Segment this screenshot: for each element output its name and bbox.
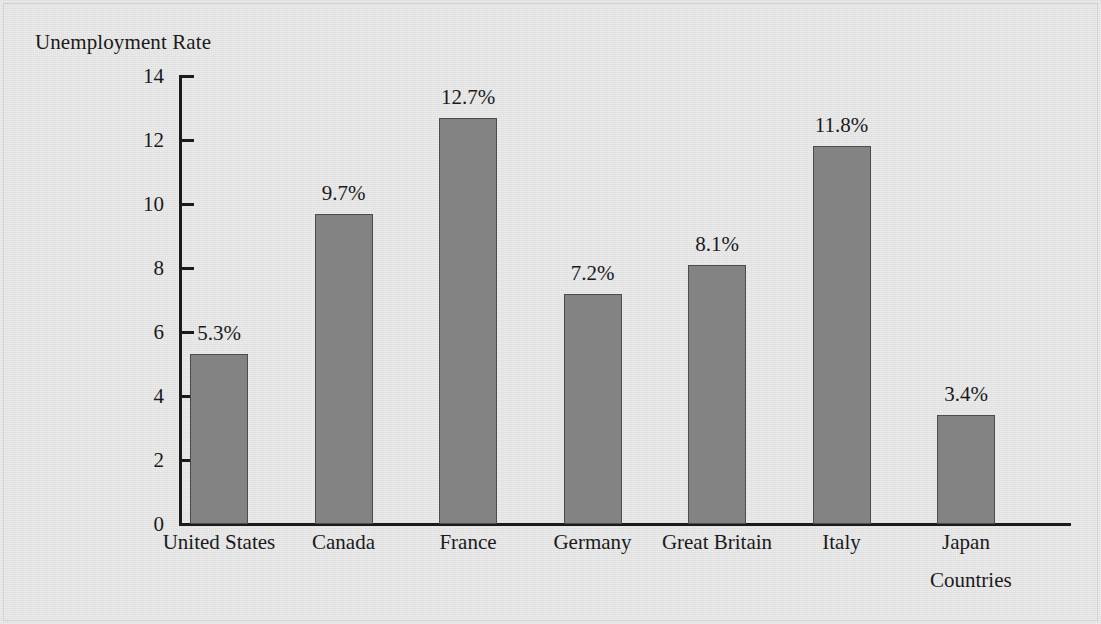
x-axis-title: Countries: [930, 568, 1012, 593]
bar-value-label-united-states: 5.3%: [159, 323, 279, 344]
y-tick-label-6: 6: [94, 322, 164, 343]
bar-japan: [937, 415, 995, 524]
y-tick-mark-12: [180, 139, 194, 142]
bar-germany: [564, 294, 622, 524]
bar-value-label-japan: 3.4%: [906, 384, 1026, 405]
y-tick-mark-10: [180, 203, 194, 206]
bar-france: [439, 118, 497, 524]
y-tick-label-12: 12: [94, 130, 164, 151]
bar-italy: [813, 146, 871, 524]
y-axis-title: Unemployment Rate: [35, 30, 211, 55]
bar-value-label-france: 12.7%: [408, 87, 528, 108]
bar-value-label-great-britain: 8.1%: [657, 234, 777, 255]
y-tick-label-8: 8: [94, 258, 164, 279]
y-tick-label-10: 10: [94, 194, 164, 215]
bar-united-states: [190, 354, 248, 524]
y-tick-mark-8: [180, 267, 194, 270]
chart-plot-area: Unemployment Rate 14121086420 5.3%9.7%12…: [0, 0, 1101, 624]
bar-value-label-italy: 11.8%: [782, 115, 902, 136]
bar-great-britain: [688, 265, 746, 524]
y-tick-label-14: 14: [94, 66, 164, 87]
y-tick-mark-14: [180, 75, 194, 78]
bar-value-label-germany: 7.2%: [533, 263, 653, 284]
bar-value-label-canada: 9.7%: [284, 183, 404, 204]
bar-canada: [315, 214, 373, 524]
unemployment-rate-bar-chart: Unemployment Rate 14121086420 5.3%9.7%12…: [0, 0, 1101, 624]
category-label-japan: Japan: [886, 532, 1046, 553]
y-tick-label-2: 2: [94, 450, 164, 471]
y-tick-label-4: 4: [94, 386, 164, 407]
